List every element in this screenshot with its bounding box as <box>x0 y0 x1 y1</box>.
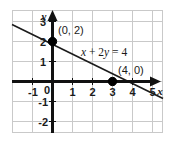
y-tick-label-1: 1 <box>40 56 46 68</box>
data-point-x-intercept <box>108 77 116 85</box>
x-tick-label-neg1: -1 <box>28 86 38 98</box>
y-tick-label-2: 2 <box>40 36 46 48</box>
x-tick-label-4: 4 <box>129 86 136 98</box>
equation-annotation: x + 2y = 4 <box>80 46 127 59</box>
y-intercept-annotation: (0, 2) <box>58 24 84 36</box>
y-tick-label-neg2: -2 <box>38 116 48 128</box>
x-intercept-annotation: (4, 0) <box>118 64 144 76</box>
x-tick-label-2: 2 <box>89 86 95 98</box>
equation-equals-term: = 4 <box>109 46 127 58</box>
y-tick-label-neg1: -1 <box>38 96 48 108</box>
x-tick-label-1: 1 <box>69 86 75 98</box>
coordinate-plane-figure: 3 2 1 -1 -2 -1 0 1 2 3 4 5 y x (0, 2) (4… <box>0 0 171 149</box>
x-tick-label-3: 3 <box>109 86 115 98</box>
equation-plus-term: + 2 <box>86 46 104 58</box>
x-tick-label-0: 0 <box>44 84 50 96</box>
x-tick-label-5: 5 <box>149 86 155 98</box>
graph-canvas: 3 2 1 -1 -2 -1 0 1 2 3 4 5 y x (0, 2) (4… <box>0 0 171 149</box>
data-point-y-intercept <box>48 37 56 45</box>
x-axis-label: x <box>156 85 163 97</box>
y-axis-label: y <box>40 10 47 22</box>
